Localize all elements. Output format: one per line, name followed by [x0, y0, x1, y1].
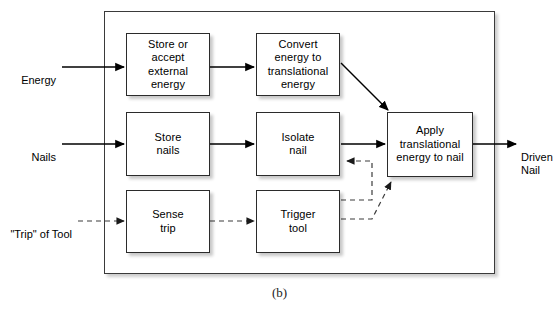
- block-trigger-tool[interactable]: Trigger tool: [256, 190, 340, 253]
- block-sense-trip[interactable]: Sense trip: [126, 190, 210, 253]
- input-label-nails: Nails: [0, 137, 56, 164]
- block-label: Store or accept external energy: [148, 38, 188, 92]
- output-label-driven-nail-text: Driven Nail: [521, 151, 553, 177]
- output-label-driven-nail: Driven Nail: [521, 137, 559, 178]
- block-label: Convert energy to translational energy: [268, 38, 329, 92]
- block-store-nails[interactable]: Store nails: [126, 112, 210, 176]
- block-label: Trigger tool: [280, 208, 315, 235]
- block-label: Store nails: [155, 131, 182, 158]
- block-label: Isolate nail: [281, 131, 314, 158]
- figure-canvas: Store or accept external energy Convert …: [0, 0, 559, 313]
- input-label-energy-text: Energy: [21, 74, 56, 86]
- input-label-nails-text: Nails: [32, 151, 56, 163]
- block-isolate-nail[interactable]: Isolate nail: [256, 112, 340, 176]
- block-store-or-accept-external-energy[interactable]: Store or accept external energy: [126, 33, 210, 96]
- input-label-energy: Energy: [0, 60, 56, 87]
- block-apply-translational-energy-to-nail[interactable]: Apply translational energy to nail: [387, 112, 473, 177]
- block-label: Apply translational energy to nail: [396, 124, 463, 165]
- input-label-trip-of-tool-text: "Trip" of Tool: [10, 228, 72, 240]
- block-convert-energy-to-translational-energy[interactable]: Convert energy to translational energy: [256, 33, 340, 96]
- input-label-trip-of-tool: "Trip" of Tool: [0, 214, 72, 241]
- figure-caption: (b): [0, 285, 559, 301]
- block-label: Sense trip: [152, 208, 184, 235]
- figure-caption-text: (b): [272, 285, 287, 300]
